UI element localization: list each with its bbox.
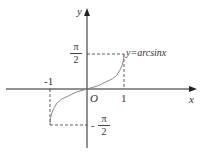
y-tick-neg-pi-over-2: π 2	[98, 114, 110, 137]
y-tick-neg-sign: -	[91, 121, 94, 131]
x-axis-label: x	[189, 94, 194, 105]
x-axis-arrow-icon	[189, 86, 197, 92]
function-label: y=arcsinx	[126, 48, 166, 58]
y-axis-label: y	[77, 6, 82, 17]
x-tick-neg-one: -1	[44, 76, 53, 87]
y-axis-arrow-icon	[84, 8, 90, 16]
origin-label: O	[90, 93, 98, 104]
y-tick-pi-over-2: π 2	[70, 42, 82, 65]
arcsin-graph: y x O -1 1 y=arcsinx π 2 - π 2	[0, 0, 201, 160]
x-tick-one: 1	[121, 93, 127, 104]
